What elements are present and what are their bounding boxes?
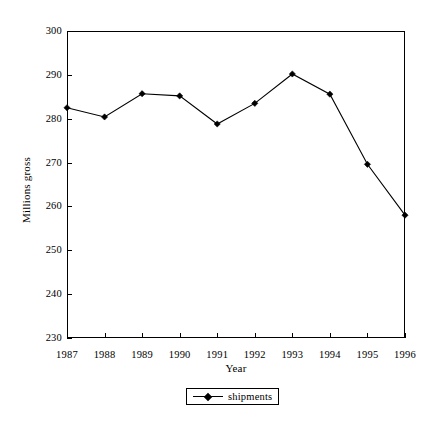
x-axis-tick-label-text: 1987 <box>56 349 78 360</box>
y-axis-title: Millions gross <box>9 150 43 230</box>
chart-legend: shipments <box>186 388 279 405</box>
y-axis-tick-label: 240 <box>24 288 62 299</box>
x-axis-tick-label-text: 1996 <box>394 349 416 360</box>
x-axis-tick-label-text: 1989 <box>131 349 153 360</box>
y-axis-tick-label: 300 <box>24 25 62 36</box>
x-axis-tick-label: 1996 <box>383 344 427 362</box>
plot-area-frame <box>67 31 405 338</box>
line-chart-figure: 230240250260270280290300 198719881989199… <box>0 0 435 427</box>
y-axis-tick-label-text: 300 <box>28 25 62 36</box>
y-axis-tick-label-text: 280 <box>28 113 62 124</box>
x-axis-tick-label-text: 1995 <box>357 349 379 360</box>
x-axis-title: Year <box>67 362 405 374</box>
legend-entry-label: shipments <box>228 391 272 402</box>
y-axis-tick-label: 250 <box>24 244 62 255</box>
x-axis-tick-label-text: 1994 <box>319 349 341 360</box>
y-axis-tick-label: 290 <box>24 69 62 80</box>
y-axis-tick-label-text: 230 <box>28 332 62 343</box>
y-axis-tick-label-text: 250 <box>28 244 62 255</box>
y-axis-tick-label: 230 <box>24 332 62 343</box>
x-axis-tick-label-text: 1991 <box>206 349 228 360</box>
x-axis-tick-label-text: 1992 <box>244 349 266 360</box>
x-axis-tick-label-text: 1993 <box>281 349 303 360</box>
y-axis-tick-label-text: 240 <box>28 288 62 299</box>
legend-line-diamond-icon <box>193 391 223 402</box>
x-axis-tick-label-text: 1988 <box>94 349 116 360</box>
y-axis-tick-label-text: 290 <box>28 69 62 80</box>
y-axis-title-text: Millions gross <box>20 157 32 223</box>
x-axis-tick-label-text: 1990 <box>169 349 191 360</box>
y-axis-tick-label: 280 <box>24 113 62 124</box>
